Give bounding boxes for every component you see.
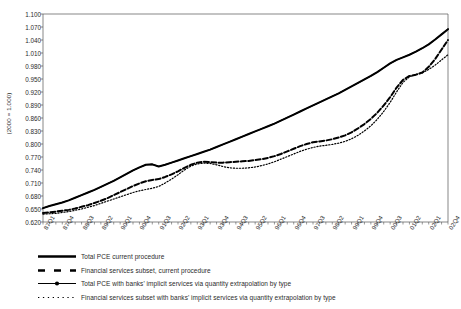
legend-item: Financial services subset, current proce… [36,264,211,277]
legend-dotted-line-marker [36,292,78,303]
legend-item: Total PCE with banks' implicit services … [36,277,291,290]
legend-item-label: Total PCE current procedure [81,253,164,260]
x-tick-label: 91Q3 [158,214,172,231]
legend-line-with-point-marker [36,278,78,289]
x-tick-label: 96Q1 [273,214,287,231]
x-tick-label: 99Q4 [370,214,384,231]
x-tick-label: 02Q4 [447,214,461,231]
x-tick-label: 92Q2 [177,214,191,231]
x-tick-label: 97Q3 [312,214,326,231]
x-tick-label: 94Q3 [235,214,249,231]
x-tick-label: 01Q2 [408,214,422,231]
x-tick-label: 88Q3 [81,214,95,231]
chart-legend: Total PCE current procedureFinancial ser… [36,250,456,308]
legend-dashed-line-marker [36,265,78,276]
legend-item: Total PCE current procedure [36,250,164,263]
legend-solid-thick-line-marker [36,251,78,262]
x-tick-label: 87Q1 [42,214,56,231]
x-tick-label: 93Q1 [196,214,210,231]
x-tick-label: 00Q3 [389,214,403,231]
legend-item-label: Financial services subset, current proce… [81,267,211,274]
x-tick-label: 87Q4 [61,214,75,231]
legend-item-label: Total PCE with banks' implicit services … [81,280,291,287]
x-tick-label: 99Q1 [351,214,365,231]
x-tick-label: 98Q2 [331,214,345,231]
x-tick-label: 90Q1 [119,214,133,231]
x-tick-label: 90Q4 [138,214,152,231]
legend-item: Financial services subset with banks' im… [36,291,336,304]
x-tick-label: 93Q4 [216,214,230,231]
x-tick-label: 02Q1 [428,214,442,231]
x-tick-label: 89Q2 [100,214,114,231]
legend-item-label: Financial services subset with banks' im… [81,294,336,301]
x-tick-label: 96Q4 [293,214,307,231]
x-tick-label: 95Q2 [254,214,268,231]
